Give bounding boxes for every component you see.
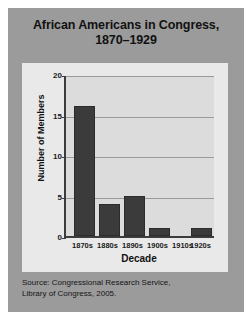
plot-area (64, 76, 214, 238)
figure-card: African Americans in Congress, 1870–1929… (8, 8, 244, 312)
y-axis-tick-labels: 20 15 10 5 0 (40, 76, 62, 238)
bar-1880s (99, 204, 120, 236)
source-note: Source: Congressional Research Service, … (22, 278, 234, 299)
chart-title: African Americans in Congress, 1870–1929 (16, 18, 236, 48)
x-axis-tick-labels: 1870s 1880s 1890s 1900s 1910s 1920s (64, 241, 216, 251)
y-tick-label-20: 20 (44, 72, 62, 80)
y-tick-label-15: 15 (44, 113, 62, 121)
y-tick-label-5: 5 (44, 194, 62, 202)
x-axis-title: Decade (64, 253, 214, 264)
source-note-line-2: Library of Congress, 2005. (22, 289, 234, 300)
bar-1890s (124, 196, 145, 237)
y-tick-label-10: 10 (44, 153, 62, 161)
bar-1920s (191, 228, 212, 236)
bar-1870s (74, 106, 95, 236)
source-note-line-1: Source: Congressional Research Service, (22, 278, 234, 289)
y-tick-label-0: 0 (44, 234, 62, 242)
plot-panel: Number of Members 20 15 10 5 0 1870s (22, 63, 228, 272)
bar-1900s (149, 228, 170, 236)
chart-title-line-1: African Americans in Congress, (33, 18, 219, 32)
x-tick-label-1920s: 1920s (182, 241, 219, 250)
y-tick-mark-0 (62, 238, 66, 239)
chart-title-line-2: 1870–1929 (16, 33, 236, 48)
gridline-20 (66, 76, 214, 77)
